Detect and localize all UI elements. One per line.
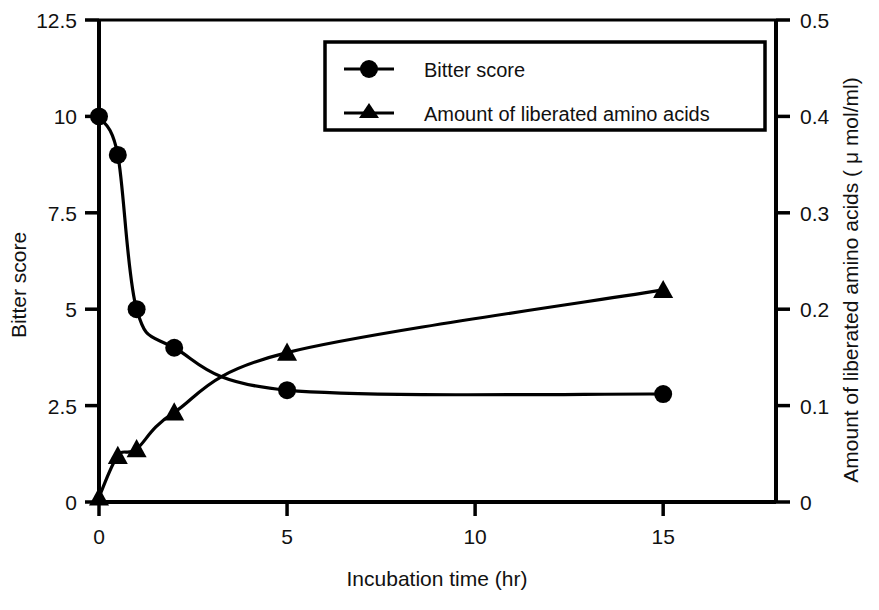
data-point-circle bbox=[90, 107, 108, 125]
x-axis-title: Incubation time (hr) bbox=[347, 567, 528, 590]
left-tick-label: 12.5 bbox=[36, 9, 77, 32]
left-tick-label: 2.5 bbox=[48, 395, 77, 418]
bottom-tick-label: 5 bbox=[281, 525, 293, 548]
y2-axis-title: Amount of liberated amino acids ( μ mol/… bbox=[839, 77, 862, 482]
dual-axis-line-chart: 02.557.51012.5 00.10.20.30.40.5 051015 B… bbox=[0, 0, 879, 610]
right-tick-label: 0.2 bbox=[800, 298, 829, 321]
legend-label-bitter-score: Bitter score bbox=[424, 59, 525, 81]
data-point-circle bbox=[654, 385, 672, 403]
right-tick-label: 0.4 bbox=[800, 105, 830, 128]
chart-container: 02.557.51012.5 00.10.20.30.40.5 051015 B… bbox=[0, 0, 879, 610]
data-point-circle bbox=[165, 339, 183, 357]
circle-marker-icon bbox=[360, 60, 378, 78]
data-point-circle bbox=[278, 381, 296, 399]
left-tick-label: 10 bbox=[54, 105, 77, 128]
right-tick-label: 0.1 bbox=[800, 395, 829, 418]
right-tick-label: 0.5 bbox=[800, 9, 829, 32]
left-tick-label: 5 bbox=[65, 298, 77, 321]
legend: Bitter score Amount of liberated amino a… bbox=[325, 42, 765, 130]
left-tick-label: 0 bbox=[65, 491, 77, 514]
legend-item-bitter-score[interactable]: Bitter score bbox=[344, 59, 525, 81]
left-tick-label: 7.5 bbox=[48, 202, 77, 225]
bottom-tick-label: 10 bbox=[463, 525, 486, 548]
data-point-circle bbox=[109, 146, 127, 164]
right-tick-label: 0 bbox=[800, 491, 812, 514]
right-tick-label: 0.3 bbox=[800, 202, 829, 225]
y-axis-title: Bitter score bbox=[7, 232, 30, 338]
legend-label-amino-acids: Amount of liberated amino acids bbox=[424, 103, 710, 125]
data-point-circle bbox=[128, 300, 146, 318]
bottom-tick-label: 15 bbox=[651, 525, 674, 548]
bottom-tick-label: 0 bbox=[93, 525, 105, 548]
